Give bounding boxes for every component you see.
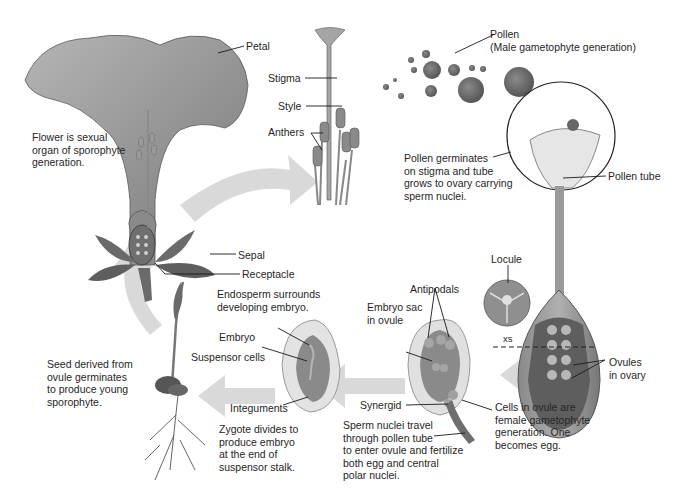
label-style: Style <box>278 100 301 113</box>
stamen-illustration <box>313 28 359 206</box>
label-antipodals: Antipodals <box>410 283 459 296</box>
label-integuments: Integuments <box>230 402 288 415</box>
flower-note: Flower is sexual organ of sporophyte gen… <box>32 131 125 169</box>
label-ovules-in-ovary: Ovules in ovary <box>609 356 646 381</box>
label-stigma: Stigma <box>268 72 301 85</box>
cells-in-ovule-note: Cells in ovule are female gametophyte ge… <box>495 401 590 451</box>
label-embryo: Embryo <box>219 331 255 344</box>
label-anthers: Anthers <box>268 126 304 139</box>
label-synergid: Synergid <box>360 399 401 412</box>
label-xs: xs <box>503 333 513 346</box>
label-sepal: Sepal <box>238 249 265 262</box>
label-embryo-sac: Embryo sac in ovule <box>367 301 422 326</box>
label-receptacle: Receptacle <box>242 268 295 281</box>
seedling-illustration <box>145 282 205 480</box>
sperm-nuclei-note: Sperm nuclei travel through pollen tube … <box>343 419 463 482</box>
locule-cross-section <box>484 280 530 326</box>
label-suspensor-cells: Suspensor cells <box>191 351 265 364</box>
label-petal: Petal <box>246 40 270 53</box>
seed-note: Seed derived from ovule germinates to pr… <box>47 358 133 408</box>
label-pollen: Pollen (Male gametophyte generation) <box>490 28 636 53</box>
seed-illustration <box>282 320 340 412</box>
pollen-grains <box>383 50 534 103</box>
label-pollen-tube: Pollen tube <box>608 170 661 183</box>
label-locule: Locule <box>491 253 522 266</box>
pollen-germinates-note: Pollen germinates on stigma and tube gro… <box>404 152 513 202</box>
endosperm-note: Endosperm surrounds developing embryo. <box>217 288 320 313</box>
flower-illustration <box>25 35 248 302</box>
zygote-note: Zygote divides to produce embryo at the … <box>219 423 298 473</box>
